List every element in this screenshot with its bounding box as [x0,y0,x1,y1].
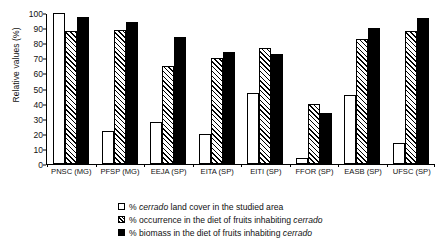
bar [308,104,320,164]
bar [259,48,271,164]
bar [162,66,174,164]
x-tick-label: FFOR (SP) [290,167,339,176]
y-tick-mark [43,104,46,105]
chart-legend: % cerrado land cover in the studied area… [118,200,322,239]
bar [368,28,380,164]
y-tick-mark [43,89,46,90]
bar-group [144,14,193,164]
bar [114,30,126,164]
y-tick-mark [43,59,46,60]
bar-groups [47,14,435,164]
bar-group [96,14,145,164]
legend-swatch-white [118,203,125,210]
legend-item: % occurrence in the diet of fruits inhab… [118,213,322,226]
bar [150,122,162,164]
legend-item: % biomass in the diet of fruits inhabiti… [118,226,322,239]
x-tick-label: EASB (SP) [339,167,388,176]
bar [126,22,138,164]
bar-group [47,14,96,164]
bar [393,143,405,164]
plot-area: 0102030405060708090100 [46,14,435,165]
y-tick-mark [43,29,46,30]
y-tick-mark [43,119,46,120]
bar [356,39,368,164]
x-tick-label: EITA (SP) [193,167,242,176]
bar [296,158,308,164]
bar [211,58,223,164]
y-axis-title: Relative values (%) [11,0,21,130]
y-tick-mark [43,165,46,166]
bar [320,113,332,164]
y-tick-mark [43,14,46,15]
x-tick-label: UFSC (SP) [387,167,436,176]
bar [344,95,356,164]
bar-group [387,14,436,164]
bar-group [241,14,290,164]
bar-group [193,14,242,164]
legend-item: % cerrado land cover in the studied area [118,200,322,213]
bar [223,52,235,164]
bar-chart: Relative values (%) 01020304050607080901… [0,0,445,247]
x-tick-label: PFSP (MG) [96,167,145,176]
bar [53,13,65,164]
bar-group [338,14,387,164]
bar [417,18,429,164]
x-tick-label: PNSC (MG) [47,167,96,176]
legend-label: % biomass in the diet of fruits inhabiti… [129,228,312,238]
y-tick-mark [43,74,46,75]
y-tick-mark [43,149,46,150]
bar [271,54,283,164]
x-tick-label: EITI (SP) [242,167,291,176]
x-tick-label: EEJA (SP) [144,167,193,176]
bar [102,131,114,164]
y-tick-mark [43,134,46,135]
bar [247,93,259,164]
bar [405,31,417,164]
bar [65,31,77,164]
bar [199,134,211,164]
y-tick-mark [43,44,46,45]
legend-swatch-hatch [118,216,125,223]
bar-group [290,14,339,164]
legend-label: % occurrence in the diet of fruits inhab… [129,215,322,225]
x-axis-labels: PNSC (MG)PFSP (MG)EEJA (SP)EITA (SP)EITI… [47,167,436,176]
legend-label: % cerrado land cover in the studied area [129,202,283,212]
bar [174,37,186,164]
legend-swatch-black [118,229,125,236]
bar [77,17,89,164]
